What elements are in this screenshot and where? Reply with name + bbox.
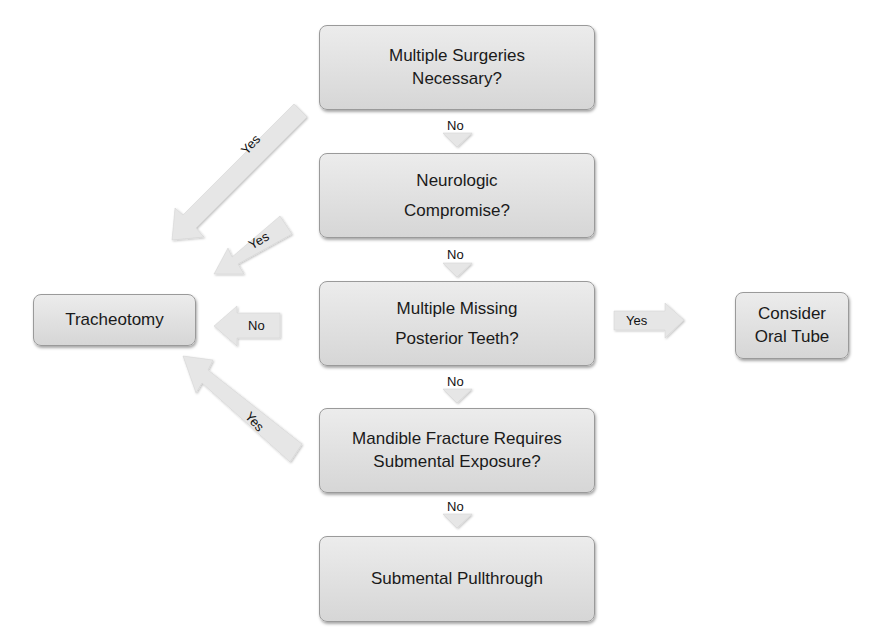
- down-arrow-icon: [443, 514, 472, 528]
- node-multiple-surgeries: Multiple Surgeries Necessary?: [319, 25, 595, 110]
- node-neurologic-compromise: Neurologic Compromise?: [319, 153, 595, 238]
- node-line: Oral Tube: [755, 326, 830, 348]
- edge-label-q3-yes-right: Yes: [626, 313, 647, 328]
- node-line: Posterior Teeth?: [395, 324, 518, 354]
- node-line: Multiple Surgeries: [389, 45, 525, 67]
- down-arrow-icon: [443, 263, 472, 277]
- node-mandible-fracture: Mandible Fracture Requires Submental Exp…: [319, 408, 595, 493]
- right-arrow-icon: [614, 303, 684, 338]
- node-line: Necessary?: [389, 68, 525, 90]
- node-line: Mandible Fracture Requires: [352, 428, 562, 450]
- edge-label-q1-no: No: [447, 118, 464, 133]
- node-label: Tracheotomy: [65, 309, 164, 331]
- node-tracheotomy: Tracheotomy: [33, 294, 196, 346]
- diagonal-arrow-icon: [183, 356, 302, 462]
- edge-label-q3-no: No: [447, 374, 464, 389]
- node-line: Neurologic: [404, 166, 510, 196]
- diagonal-arrow-icon: [172, 104, 307, 240]
- edge-label-q2-no: No: [447, 247, 464, 262]
- down-arrow-icon: [443, 389, 472, 403]
- node-line: Compromise?: [404, 196, 510, 226]
- left-arrow-icon: [214, 306, 280, 346]
- node-label: Submental Pullthrough: [371, 568, 543, 590]
- node-line: Multiple Missing: [395, 294, 518, 324]
- node-line: Submental Exposure?: [352, 451, 562, 473]
- node-line: Consider: [755, 303, 830, 325]
- edge-label-q3-no-left: No: [248, 318, 265, 333]
- edge-label-q4-no: No: [447, 499, 464, 514]
- node-consider-oral-tube: Consider Oral Tube: [735, 292, 849, 359]
- node-missing-posterior-teeth: Multiple Missing Posterior Teeth?: [319, 281, 595, 366]
- node-submental-pullthrough: Submental Pullthrough: [319, 536, 595, 622]
- down-arrow-icon: [443, 133, 472, 147]
